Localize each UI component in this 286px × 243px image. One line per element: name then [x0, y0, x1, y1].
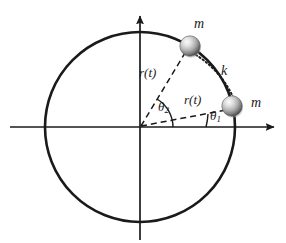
angle-label-theta2: θ2 — [158, 100, 169, 115]
theta1-subscript: 1 — [216, 114, 221, 124]
spring-constant-label: k — [221, 64, 227, 78]
angle-arc-theta1 — [206, 114, 208, 127]
mass-right-label: m — [251, 96, 261, 110]
mass-top-ball — [180, 36, 200, 56]
physics-diagram-figure: m m k r(t) r(t) θ2 θ1 — [0, 0, 286, 243]
radius-label-theta1: r(t) — [184, 93, 201, 106]
radius-line-theta2 — [141, 53, 185, 126]
theta2-subscript: 2 — [164, 105, 169, 115]
radius-label-theta2: r(t) — [139, 66, 156, 79]
diagram-canvas — [0, 0, 286, 243]
mass-right-ball — [222, 96, 242, 116]
mass-top-label: m — [194, 17, 204, 31]
angle-label-theta1: θ1 — [210, 109, 221, 124]
